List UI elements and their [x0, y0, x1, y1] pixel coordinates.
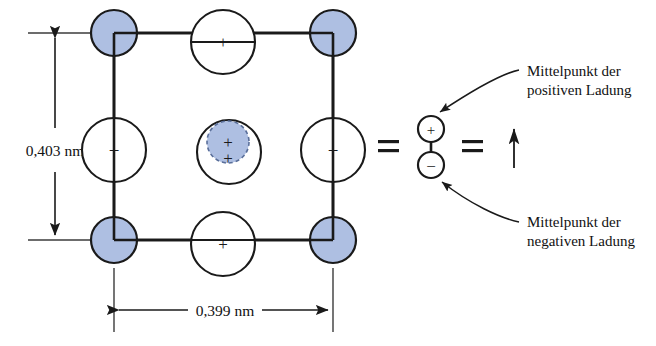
vertical-dimension-label: 0,403 nm	[26, 142, 85, 159]
face-mid-left-sign: −	[109, 140, 120, 161]
equals-sign-1-bar-bottom	[378, 149, 399, 152]
equals-sign-2-bar-bottom	[462, 149, 483, 152]
callout-positive-line2: positiven Ladung	[527, 82, 632, 98]
face-bottom-center-sign: +	[218, 235, 228, 254]
callout-positive-line1: Mittelpunkt der	[527, 63, 621, 79]
equals-sign-1-bar-top	[378, 140, 399, 143]
equals-sign-1	[378, 140, 399, 152]
callout-negative-line1: Mittelpunkt der	[527, 214, 621, 230]
callout-positive-leader	[440, 70, 519, 112]
equals-sign-2-bar-top	[462, 140, 483, 143]
callout-negative-line2: negativen Ladung	[527, 233, 635, 249]
center-atom-sign-lower: +	[223, 149, 233, 168]
dipole-symbol: + −	[418, 116, 444, 178]
face-top-center-sign: +	[218, 33, 228, 52]
dipole-positive-sign: +	[427, 122, 435, 138]
equals-sign-2	[462, 140, 483, 152]
dipole-negative-sign: −	[426, 157, 436, 176]
horizontal-dimension-label: 0,399 nm	[196, 302, 255, 319]
horizontal-dimension: 0,399 nm	[114, 268, 333, 332]
center-atom-group: + +	[197, 120, 261, 184]
callout-negative: Mittelpunkt der negativen Ladung	[442, 182, 635, 249]
callout-positive: Mittelpunkt der positiven Ladung	[440, 63, 632, 112]
crystal-dipole-figure: 0,403 nm	[0, 0, 656, 346]
callout-negative-leader	[442, 182, 519, 222]
figure-root: 0,403 nm	[0, 0, 656, 346]
face-mid-right-sign: −	[328, 140, 339, 161]
